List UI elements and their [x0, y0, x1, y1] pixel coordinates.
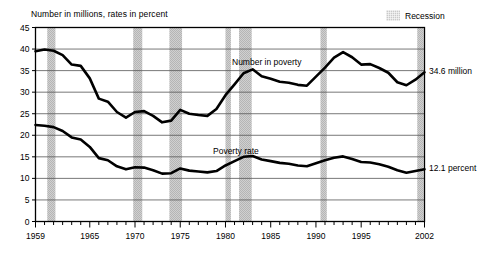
svg-text:15: 15: [20, 152, 30, 162]
x-axis-ticks: [36, 222, 425, 228]
svg-text:1995: 1995: [352, 231, 371, 241]
series-label-poverty-rate: Poverty rate: [213, 146, 259, 156]
poverty-chart-figure: Number in millions, rates in percent Rec…: [0, 0, 490, 262]
series-label-number-in-poverty: Number in poverty: [232, 57, 301, 67]
svg-text:25: 25: [20, 109, 30, 119]
svg-text:1990: 1990: [306, 231, 325, 241]
svg-text:0: 0: [25, 217, 30, 227]
svg-text:10: 10: [20, 173, 30, 183]
svg-text:5: 5: [25, 195, 30, 205]
chart-plot-area: 051015202530354045 195919651970197519801…: [0, 0, 490, 262]
svg-text:20: 20: [20, 130, 30, 140]
svg-text:1959: 1959: [26, 231, 45, 241]
svg-text:1970: 1970: [126, 231, 145, 241]
svg-text:1975: 1975: [171, 231, 190, 241]
svg-text:1965: 1965: [80, 231, 99, 241]
svg-text:30: 30: [20, 87, 30, 97]
x-axis-tick-labels: 195919651970197519801985199019952002: [26, 231, 434, 241]
svg-text:1985: 1985: [261, 231, 280, 241]
end-value-number-in-poverty: 34.6 million: [429, 66, 472, 76]
svg-text:40: 40: [20, 44, 30, 54]
svg-text:35: 35: [20, 66, 30, 76]
svg-text:1980: 1980: [216, 231, 235, 241]
end-value-poverty-rate: 12.1 percent: [429, 163, 476, 173]
y-axis-tick-labels: 051015202530354045: [20, 23, 30, 227]
svg-text:2002: 2002: [415, 231, 434, 241]
svg-text:45: 45: [20, 23, 30, 33]
